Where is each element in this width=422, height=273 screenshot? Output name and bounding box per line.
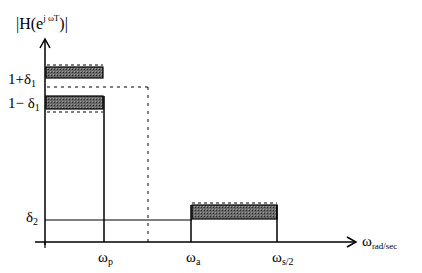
xtick-main: ω	[272, 249, 282, 265]
unity-reference-dashed	[47, 87, 148, 242]
y-axis-label: |H(ej ωT)|	[16, 14, 68, 32]
xtick-omega-s2: ωs/2	[272, 250, 294, 267]
xtick-main: ω	[186, 249, 196, 265]
xtick-omega-p: ωp	[98, 250, 113, 267]
ytick-1-plus-delta1: 1+δ1	[8, 72, 36, 89]
xtick-main: ω	[98, 249, 108, 265]
ytick-sub: 2	[33, 216, 38, 227]
xtick-sub: s/2	[282, 256, 294, 267]
ytick-sub: 1	[35, 102, 40, 113]
y-axis-label-sup: j ωT	[43, 13, 59, 23]
x-axis-label: ωrad/sec	[362, 234, 397, 251]
x-axis-label-sub: rad/sec	[372, 241, 397, 251]
tolerance-diagram	[0, 0, 422, 273]
stopband-band	[191, 203, 277, 242]
x-axis-label-main: ω	[362, 233, 372, 249]
x-axis	[35, 237, 356, 247]
ytick-main: 1− δ	[8, 95, 35, 111]
passband-upper-band	[46, 65, 103, 78]
ytick-main: 1+δ	[8, 71, 31, 87]
y-axis-label-suffix: )|	[59, 15, 68, 32]
ytick-delta2: δ2	[26, 210, 38, 227]
ytick-sub: 1	[31, 78, 36, 89]
xtick-sub: p	[108, 256, 113, 267]
xtick-sub: a	[196, 256, 200, 267]
xtick-omega-a: ωa	[186, 250, 200, 267]
ytick-1-minus-delta1: 1− δ1	[8, 96, 40, 113]
y-axis-label-prefix: |H(e	[16, 15, 43, 32]
